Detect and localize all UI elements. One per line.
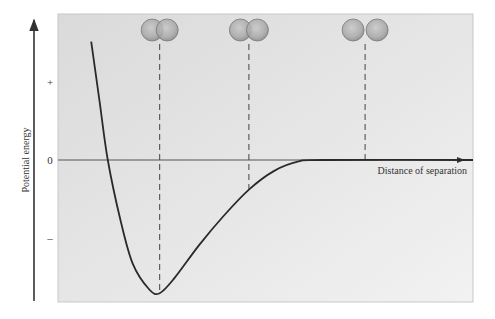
y-tick-label-minus: – [46,232,53,244]
y-axis-label: Potential energy [20,127,31,192]
plot-panel [58,14,473,302]
x-axis-label: Distance of separation [378,165,467,176]
atom-icon [342,19,364,41]
potential-energy-diagram: Potential energy + 0 – Distance of separ… [0,0,495,319]
atom-icon [246,19,268,41]
atom-icon [156,19,178,41]
y-tick-label-plus: + [47,76,53,88]
y-tick-label-zero: 0 [47,154,53,166]
atom-icon [366,19,388,41]
